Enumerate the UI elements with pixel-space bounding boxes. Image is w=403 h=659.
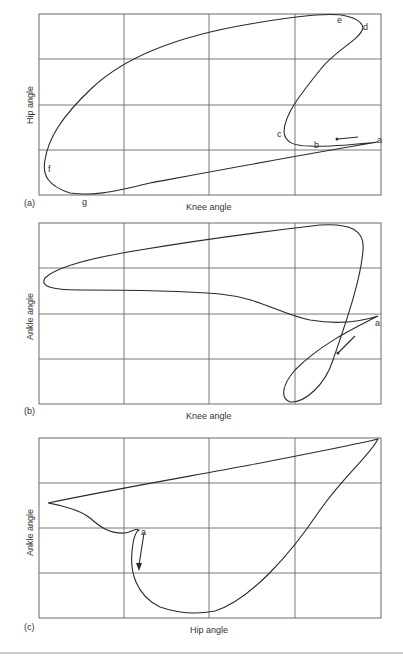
figure-canvas: a b c d e f g (a) Knee angle Hip angle a… [0,0,403,659]
panel-b-grid [39,223,381,404]
panel-a-ylabel: Hip angle [25,86,35,124]
panel-a-curve [44,15,378,195]
panel-b-point-a: a [375,318,380,328]
panel-b: a (b) Knee angle Ankle angle [24,223,381,421]
panel-a-frame [39,14,381,195]
panel-b-frame [39,223,381,404]
panel-c-point-a: a [141,527,146,537]
panel-b-curve [44,225,378,402]
panel-a-arrowhead [336,138,339,141]
bottom-divider [0,652,403,654]
panel-c-arrowhead [136,563,142,571]
panel-a-point-f: f [48,164,51,174]
panel-a-xlabel: Knee angle [186,202,232,212]
panel-a-point-b: b [314,140,319,150]
panel-b-ylabel: Ankle angle [25,293,35,340]
panel-c-xlabel: Hip angle [190,625,228,635]
panel-c-ylabel: Ankle angle [25,509,35,556]
panel-c-curve [48,439,378,613]
panel-a-point-g: g [82,197,87,207]
panel-c-tag: (c) [24,622,35,632]
panel-a-direction-arrow [338,137,358,139]
panel-c-direction-arrow [139,533,144,565]
panel-a-grid [39,14,381,195]
panel-b-xlabel: Knee angle [186,411,232,421]
panel-a: a b c d e f g (a) Knee angle Hip angle [24,14,382,212]
panel-a-tag: (a) [24,198,35,208]
panel-a-point-d: d [363,22,368,32]
panel-b-tag: (b) [24,406,35,416]
panel-c: a (c) Hip angle Ankle angle [24,438,381,635]
panel-c-grid [39,438,381,618]
panel-b-direction-arrow [339,336,355,352]
panel-b-arrowhead [337,352,340,355]
panel-a-point-a: a [377,135,382,145]
panel-a-point-c: c [277,129,282,139]
panel-a-point-e: e [337,15,342,25]
